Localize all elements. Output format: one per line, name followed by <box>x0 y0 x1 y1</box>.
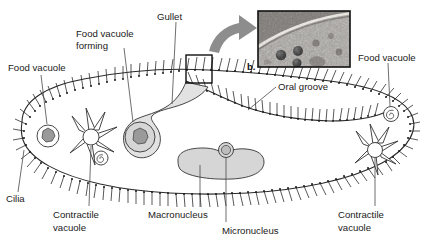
label-contractile-vacuole-left-line2: vacuole <box>53 222 86 233</box>
paramecium-diagram: Food vacuole Food vacuole forming Gullet… <box>0 0 438 243</box>
label-gullet: Gullet <box>157 11 182 22</box>
micronucleus-inner <box>221 145 230 154</box>
figure-canvas: Food vacuole Food vacuole forming Gullet… <box>0 0 438 243</box>
label-food-vacuole-right: Food vacuole <box>358 52 416 63</box>
label-cilia: Cilia <box>6 193 25 204</box>
label-contractile-vacuole-right-line1: Contractile <box>338 209 384 220</box>
label-oral-groove: Oral groove <box>278 81 328 92</box>
label-panel-b: b. <box>247 61 255 72</box>
food-vacuole-left <box>37 125 59 147</box>
food-vacuole-small-left <box>94 151 108 165</box>
zoom-arrow <box>209 15 257 53</box>
label-micronucleus: Micronucleus <box>222 225 279 236</box>
contractile-vacuole-left-center <box>83 129 99 145</box>
zoom-arrow-shape <box>209 15 257 53</box>
food-vacuole-small-left-outline <box>94 151 108 165</box>
label-contractile-vacuole-right-line2: vacuole <box>338 222 371 233</box>
micrograph-inset <box>256 11 352 68</box>
contractile-vacuole-right-center <box>368 143 383 158</box>
label-food-vacuole-forming-line2: forming <box>76 40 108 51</box>
leader-cilia <box>18 150 24 192</box>
label-food-vacuole-left: Food vacuole <box>8 62 66 73</box>
food-vacuole-right <box>384 107 399 122</box>
label-contractile-vacuole-left-line1: Contractile <box>53 209 99 220</box>
label-macronucleus: Macronucleus <box>148 209 208 220</box>
label-food-vacuole-forming-line1: Food vacuole <box>76 28 134 39</box>
food-vacuole-right-outline <box>384 107 399 122</box>
micronucleus <box>219 143 234 158</box>
